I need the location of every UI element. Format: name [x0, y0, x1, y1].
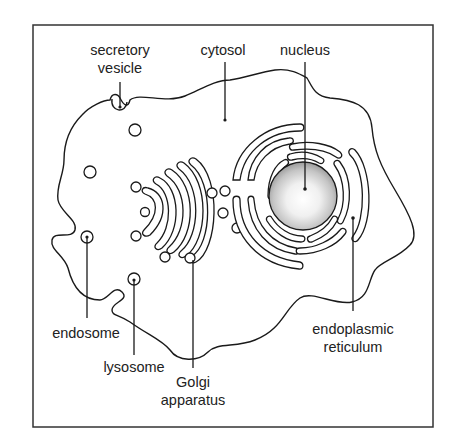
- leader-dot: [132, 278, 135, 281]
- label-endoplasmic-reticulum: endoplasmic: [312, 321, 393, 337]
- label-endosome: endosome: [52, 325, 120, 341]
- label-golgi-line2: apparatus: [161, 392, 226, 408]
- label-lysosome: lysosome: [103, 359, 164, 375]
- leader-dot: [118, 105, 121, 108]
- label-secretory-vesicle: secretory: [90, 42, 150, 58]
- vesicle-icon: [129, 124, 141, 136]
- label-endoplasmic-reticulum-line2: reticulum: [324, 339, 383, 355]
- leader-dot: [85, 235, 88, 238]
- golgi-apparatus-icon: [131, 158, 242, 263]
- label-cytosol: cytosol: [200, 42, 245, 58]
- cell-membrane: [52, 70, 414, 360]
- label-nucleus: nucleus: [280, 42, 330, 58]
- leader-dot: [223, 118, 226, 121]
- leader-dot: [303, 187, 307, 191]
- vesicle-icon: [84, 166, 96, 178]
- label-golgi: Golgi: [176, 374, 210, 390]
- cell-diagram: secretory vesicle cytosol nucleus endoso…: [0, 0, 451, 443]
- nucleus-icon: [269, 162, 337, 230]
- leader-dot: [351, 216, 355, 220]
- label-secretory-vesicle-line2: vesicle: [98, 60, 142, 76]
